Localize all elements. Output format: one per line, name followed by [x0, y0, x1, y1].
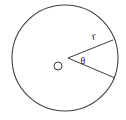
lower-radius-line	[68, 58, 115, 78]
upper-radius-line	[68, 40, 113, 58]
circle-outline	[12, 5, 118, 111]
radius-label: r	[89, 29, 98, 42]
angle-label: θ	[81, 55, 86, 66]
diagram-canvas: r θ	[0, 0, 126, 120]
center-point-marker-icon	[54, 62, 62, 70]
circle-sector-diagram: r θ	[0, 0, 126, 120]
